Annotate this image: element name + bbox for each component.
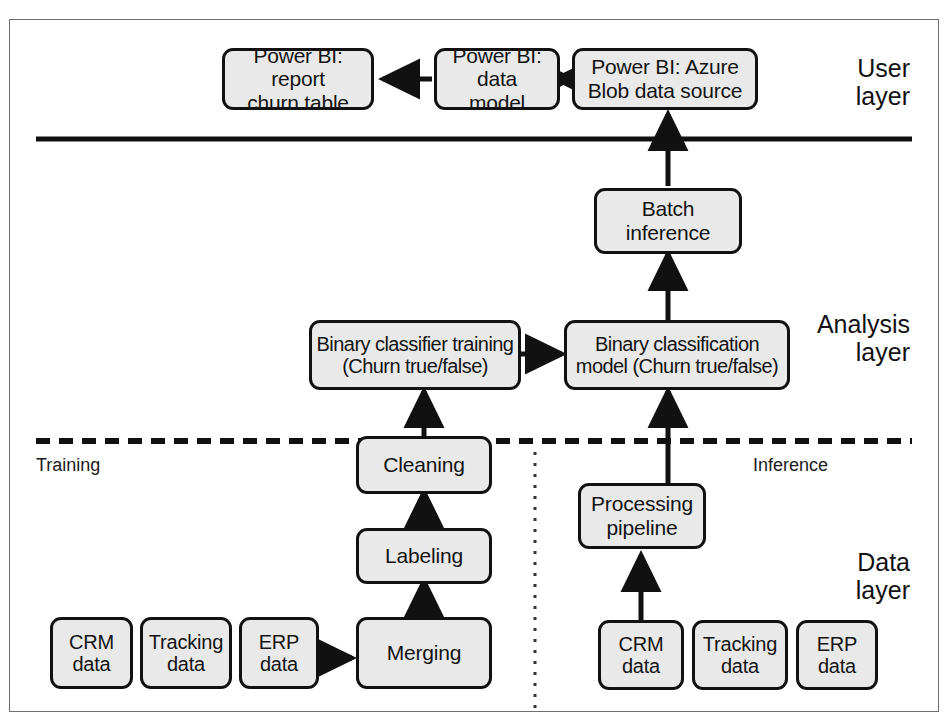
layer-label-analysis: Analysis layer (722, 282, 910, 366)
node-label: Power BI: report churn table (229, 44, 367, 115)
node-power-bi-azure-blob-source[interactable]: Power BI: Azure Blob data source (572, 48, 758, 110)
architecture-diagram: Power BI: report churn table Power BI: d… (0, 0, 948, 726)
node-inference-erp-data[interactable]: ERP data (796, 620, 878, 690)
node-label: Tracking data (703, 633, 777, 678)
node-label: Binary classifier training (Churn true/f… (317, 333, 514, 378)
node-label: Batch inference (601, 197, 735, 244)
node-power-bi-report[interactable]: Power BI: report churn table (222, 48, 374, 110)
node-label: Cleaning (383, 453, 464, 477)
node-processing-pipeline[interactable]: Processing pipeline (578, 483, 706, 549)
node-cleaning[interactable]: Cleaning (356, 436, 492, 494)
node-label: Processing pipeline (591, 492, 693, 539)
node-training-crm-data[interactable]: CRM data (50, 617, 133, 689)
node-power-bi-data-model[interactable]: Power BI: data model (434, 48, 560, 110)
node-label: Tracking data (149, 631, 223, 676)
node-label: Power BI: data model (441, 44, 553, 115)
node-binary-classifier-training[interactable]: Binary classifier training (Churn true/f… (309, 320, 521, 390)
node-merging[interactable]: Merging (356, 617, 492, 689)
label-inference: Inference (753, 455, 828, 476)
node-label: ERP data (259, 631, 300, 676)
label-training: Training (36, 455, 100, 476)
node-inference-crm-data[interactable]: CRM data (598, 620, 684, 690)
node-label: ERP data (817, 633, 858, 678)
node-label: Power BI: Azure Blob data source (588, 55, 742, 102)
node-labeling[interactable]: Labeling (356, 528, 492, 584)
node-label: Labeling (385, 544, 463, 568)
node-label: CRM data (619, 633, 664, 678)
node-label: Merging (387, 641, 461, 665)
node-training-erp-data[interactable]: ERP data (239, 617, 319, 689)
node-label: CRM data (69, 631, 114, 676)
node-training-tracking-data[interactable]: Tracking data (140, 617, 232, 689)
node-inference-tracking-data[interactable]: Tracking data (692, 620, 788, 690)
node-batch-inference[interactable]: Batch inference (594, 188, 742, 254)
layer-label-user: User layer (742, 26, 910, 110)
layer-label-data: Data layer (742, 520, 910, 604)
